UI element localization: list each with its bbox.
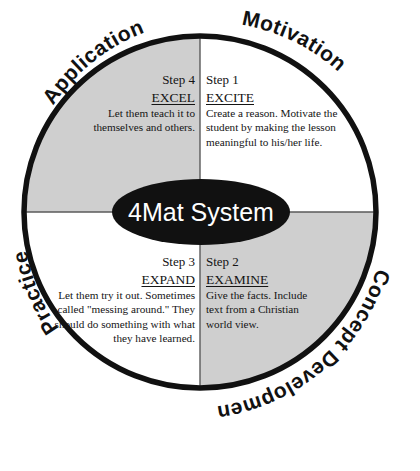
center-label-text: 4Mat System	[128, 198, 274, 226]
step4-keyword: EXCEL	[92, 89, 195, 106]
step2-body: Give the facts. Include text from a Chri…	[206, 288, 326, 331]
quadrant-text-step2: Step 2 EXAMINE Give the facts. Include t…	[206, 254, 326, 331]
step3-step-label: Step 3	[53, 254, 195, 271]
step3-body: Let them try it out. Sometimes called "m…	[53, 288, 195, 345]
step3-keyword: EXPAND	[53, 271, 195, 288]
step1-body: Create a reason. Motivate the student by…	[206, 106, 351, 149]
quadrant-text-step4: Step 4 EXCEL Let them teach it to themse…	[92, 72, 195, 135]
diagram-canvas: 4Mat System Application Motivation Conce…	[0, 0, 420, 471]
step4-step-label: Step 4	[92, 72, 195, 89]
step2-step-label: Step 2	[206, 254, 326, 271]
quadrant-text-step1: Step 1 EXCITE Create a reason. Motivate …	[206, 72, 351, 149]
step1-keyword: EXCITE	[206, 89, 351, 106]
quadrant-text-step3: Step 3 EXPAND Let them try it out. Somet…	[53, 254, 195, 345]
step4-body: Let them teach it to themselves and othe…	[92, 106, 195, 134]
step2-keyword: EXAMINE	[206, 271, 326, 288]
step1-step-label: Step 1	[206, 72, 351, 89]
4mat-system-diagram: 4Mat System Application Motivation Conce…	[0, 0, 420, 471]
